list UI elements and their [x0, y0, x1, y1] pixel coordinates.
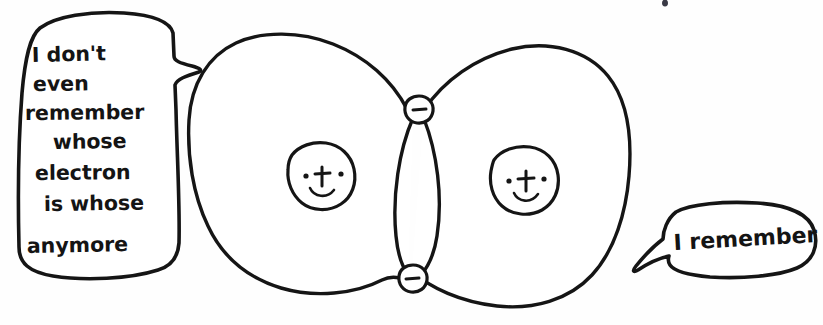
cartoon-drawing: I don't even remember whose electron is …: [0, 0, 823, 325]
left-atom-group: [189, 34, 407, 293]
right-atom-group: [412, 46, 630, 307]
left-bubble-line-6: is whose: [44, 191, 144, 216]
left-nucleus-plus-nose-horizontal: [315, 173, 330, 174]
electron-top-minus-sign: [413, 109, 426, 110]
left-bubble-line-1: I don't: [32, 41, 107, 67]
right-speech-bubble-group: I remember: [634, 202, 819, 277]
left-bubble-line-2: even: [33, 71, 89, 96]
left-nucleus-eye-left: [303, 173, 308, 178]
left-bubble-line-4: whose: [53, 129, 127, 154]
left-bubble-line-3: remember: [25, 100, 145, 125]
right-nucleus-plus-nose-horizontal: [518, 178, 534, 179]
right-nucleus-eye-left: [506, 178, 511, 183]
electron-top-group: [405, 96, 433, 123]
electron-bottom-group: [399, 265, 427, 292]
electron-bottom-minus-sign: [406, 278, 419, 279]
right-nucleus-eye-right: [541, 176, 546, 181]
left-bubble-line-7: anymore: [27, 232, 129, 258]
ink-speck: [662, 0, 668, 6]
left-bubble-line-5: electron: [35, 160, 131, 185]
left-nucleus-eye-right: [338, 171, 343, 176]
left-electron-shell: [189, 34, 407, 293]
cartoon-canvas: I don't even remember whose electron is …: [0, 0, 823, 325]
left-speech-bubble-group: I don't even remember whose electron is …: [18, 13, 200, 279]
right-electron-shell: [412, 46, 630, 307]
